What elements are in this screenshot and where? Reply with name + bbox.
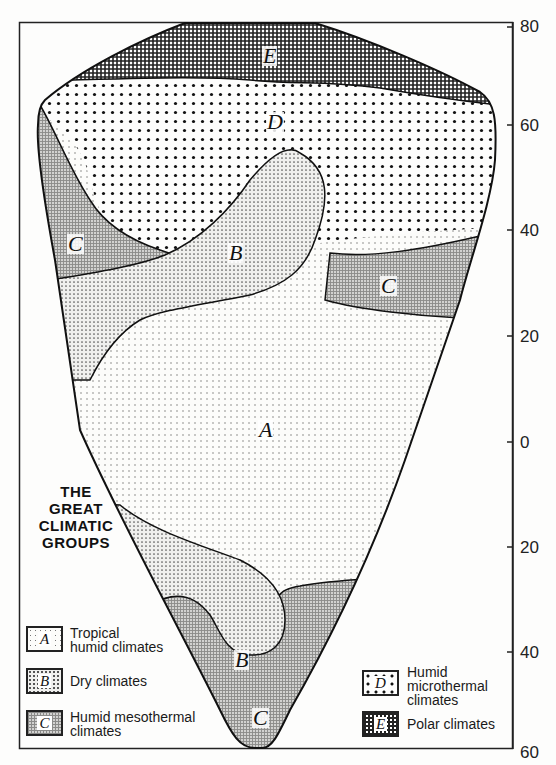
legend-label: Humid mesothermal: [70, 710, 195, 724]
latitude-tick-40n: 40: [520, 222, 539, 239]
legend-label: microthermal: [407, 679, 488, 693]
latitude-tick-40s: 40: [520, 644, 539, 661]
title-line: GROUPS: [30, 534, 122, 551]
legend-label: Humid: [407, 665, 488, 679]
region-label-d: D: [266, 112, 284, 132]
region-label-b-south: B: [234, 650, 249, 670]
latitude-tick-20n: 20: [520, 328, 539, 345]
latitude-tick-0: 0: [520, 434, 529, 451]
region-label-c-nw: C: [67, 234, 84, 254]
region-label-c-south: C: [252, 708, 269, 728]
legend-item-a: A Tropical humid climates: [26, 626, 163, 654]
region-label-b-north: B: [228, 243, 243, 263]
region-label-c-ne: C: [380, 276, 397, 296]
legend-swatch-fine-grid-icon: C: [26, 710, 63, 736]
legend-label: Tropical: [70, 626, 163, 640]
legend-item-d: D Humid microthermal climates: [362, 665, 488, 707]
legend-swatch-large-dots-icon: D: [362, 670, 399, 696]
latitude-tick-80n: 80: [520, 18, 539, 35]
legend-item-b: B Dry climates: [26, 668, 147, 694]
title-line: CLIMATIC: [30, 517, 122, 534]
latitude-tick-60n: 60: [520, 117, 539, 134]
legend-label: Polar climates: [407, 717, 495, 731]
legend-swatch-dense-dots-icon: B: [26, 668, 63, 694]
latitude-tick-20s: 20: [520, 539, 539, 556]
legend-label: climates: [407, 693, 488, 707]
region-label-e: E: [262, 46, 277, 66]
legend-item-e: E Polar climates: [362, 711, 495, 737]
legend-label: climates: [70, 724, 195, 738]
title-line: GREAT: [30, 500, 122, 517]
legend-swatch-dark-crosshatch-icon: E: [362, 711, 399, 737]
legend-swatch-fine-dots-icon: A: [26, 626, 63, 652]
diagram-title: THE GREAT CLIMATIC GROUPS: [30, 483, 122, 551]
legend-label: humid climates: [70, 640, 163, 654]
legend-label: Dry climates: [70, 674, 147, 688]
region-label-a: A: [258, 420, 273, 440]
title-line: THE: [30, 483, 122, 500]
latitude-tick-60s: 60: [520, 744, 539, 761]
legend-item-c: C Humid mesothermal climates: [26, 710, 195, 738]
